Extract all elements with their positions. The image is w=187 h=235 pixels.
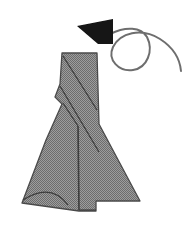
origami-step-figure: Origami folding step diagram Gray shaded…: [0, 0, 187, 235]
fold-center-vertical: [78, 126, 79, 210]
figure-canvas: [0, 0, 187, 235]
